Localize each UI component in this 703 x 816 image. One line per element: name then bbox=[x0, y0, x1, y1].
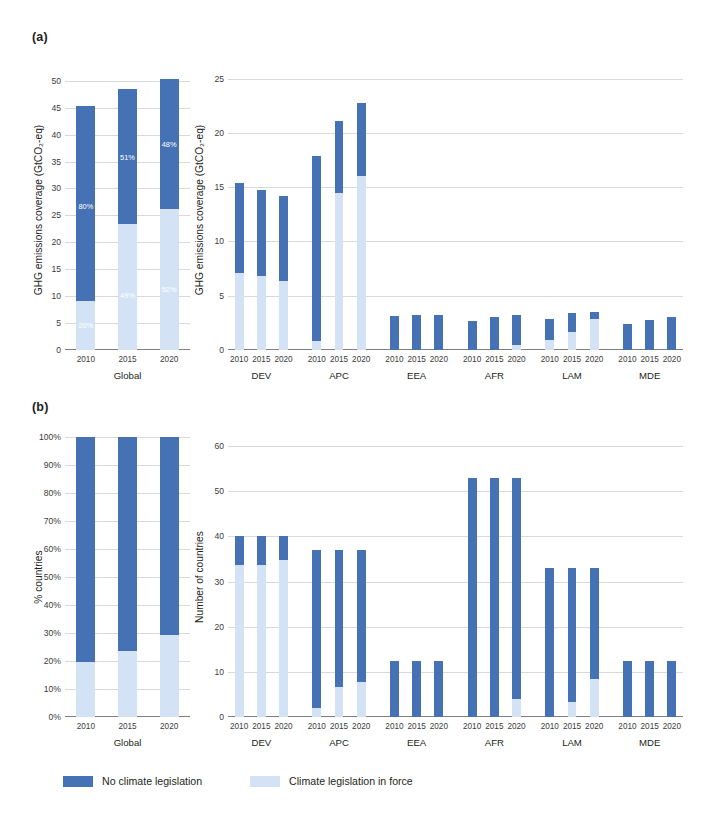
gridline bbox=[228, 446, 683, 447]
gridline bbox=[228, 241, 683, 242]
plot-area: 0102030405060Number of countries20102015… bbox=[228, 437, 683, 717]
y-axis-tick-label: 20 bbox=[51, 237, 61, 247]
bar bbox=[160, 437, 179, 717]
y-axis-tick-label: 30 bbox=[51, 183, 61, 193]
y-axis-tick-label: 10% bbox=[44, 684, 61, 694]
x-axis-tick-label: 2010 bbox=[230, 355, 248, 364]
y-axis-tick-label: 70% bbox=[44, 516, 61, 526]
x-axis-tick-label: 2015 bbox=[118, 722, 136, 731]
x-axis-tick-label: 2010 bbox=[385, 355, 403, 364]
x-axis-line bbox=[228, 349, 683, 351]
plot-area: 0510152025GHG emissions coverage (GtCO₂-… bbox=[228, 70, 683, 350]
x-axis-group-label: DEV bbox=[251, 370, 271, 381]
bar bbox=[512, 478, 521, 717]
x-axis-group-label: APC bbox=[329, 370, 349, 381]
chart-a-regions-ghg-coverage: 0510152025GHG emissions coverage (GtCO₂-… bbox=[228, 70, 683, 350]
bar: 51%49% bbox=[118, 89, 137, 350]
panel-label-a: (a) bbox=[32, 30, 48, 44]
bar bbox=[279, 536, 288, 717]
y-axis-tick-label: 0 bbox=[219, 345, 224, 355]
gridline bbox=[228, 133, 683, 134]
bar bbox=[279, 196, 288, 350]
y-axis-title: % countries bbox=[33, 437, 44, 717]
bar bbox=[257, 190, 266, 350]
y-axis-tick-label: 40 bbox=[214, 531, 224, 541]
bar-segment-legislation-in-force bbox=[76, 662, 95, 717]
y-axis-title: GHG emissions coverage (GtCO₂-eq) bbox=[194, 70, 205, 350]
gridline bbox=[228, 296, 683, 297]
y-axis-tick-label: 25 bbox=[214, 74, 224, 84]
bar-segment-legislation-in-force bbox=[257, 565, 266, 717]
x-axis-tick-label: 2010 bbox=[541, 355, 559, 364]
x-axis-tick-label: 2020 bbox=[274, 355, 292, 364]
x-axis-tick-label: 2020 bbox=[507, 722, 525, 731]
x-axis-group-label: EEA bbox=[407, 370, 426, 381]
bar-percent-label-no-legislation: 48% bbox=[160, 140, 179, 149]
bar bbox=[590, 312, 599, 350]
x-axis-tick-label: 2010 bbox=[463, 355, 481, 364]
plot-area: 0%10%20%30%40%50%60%70%80%90%100%% count… bbox=[65, 437, 190, 717]
gridline bbox=[228, 536, 683, 537]
bar-segment-legislation-in-force bbox=[568, 702, 577, 717]
bar-segment-legislation-in-force bbox=[160, 209, 179, 350]
x-axis-tick-label: 2010 bbox=[308, 722, 326, 731]
bar-segment-legislation-in-force bbox=[568, 332, 577, 350]
x-axis-tick-label: 2010 bbox=[618, 722, 636, 731]
bar-percent-label-legislation-in-force: 20% bbox=[76, 321, 95, 330]
x-axis-tick-label: 2010 bbox=[463, 722, 481, 731]
legend-swatch-light bbox=[250, 776, 280, 787]
legend-swatch-dark bbox=[63, 776, 93, 787]
bar bbox=[545, 319, 554, 350]
x-axis-tick-label: 2020 bbox=[352, 722, 370, 731]
x-axis-tick-label: 2015 bbox=[408, 722, 426, 731]
bar bbox=[412, 661, 421, 717]
bar bbox=[76, 437, 95, 717]
x-axis-tick-label: 2015 bbox=[252, 722, 270, 731]
bar bbox=[645, 320, 654, 350]
x-axis-group-label: APC bbox=[329, 737, 349, 748]
bar bbox=[335, 121, 344, 350]
x-axis-tick-label: 2015 bbox=[641, 355, 659, 364]
x-axis-group-label: AFR bbox=[485, 370, 504, 381]
bar bbox=[434, 315, 443, 350]
y-axis-tick-label: 5 bbox=[56, 318, 61, 328]
y-axis-tick-label: 50 bbox=[214, 486, 224, 496]
bar-segment-legislation-in-force bbox=[118, 224, 137, 350]
bar bbox=[235, 183, 244, 350]
x-axis-tick-label: 2010 bbox=[77, 722, 95, 731]
bar-segment-legislation-in-force bbox=[160, 635, 179, 717]
bar bbox=[623, 661, 632, 717]
chart-b-regions-number-of-countries: 0102030405060Number of countries20102015… bbox=[228, 437, 683, 717]
bar-segment-legislation-in-force bbox=[590, 679, 599, 717]
bar-segment-legislation-in-force bbox=[312, 708, 321, 717]
x-axis-tick-label: 2020 bbox=[274, 722, 292, 731]
bar bbox=[590, 568, 599, 717]
y-axis-tick-label: 25 bbox=[51, 210, 61, 220]
x-axis-group-label: LAM bbox=[562, 737, 582, 748]
bar: 80%20% bbox=[76, 106, 95, 350]
y-axis-tick-label: 0 bbox=[56, 345, 61, 355]
bar: 48%52% bbox=[160, 79, 179, 350]
x-axis-tick-label: 2015 bbox=[563, 722, 581, 731]
x-axis-tick-label: 2015 bbox=[330, 722, 348, 731]
legend-item-no-climate-legislation: No climate legislation bbox=[63, 775, 202, 787]
x-axis-tick-label: 2015 bbox=[485, 722, 503, 731]
bar-segment-legislation-in-force bbox=[545, 340, 554, 350]
bar-segment-legislation-in-force bbox=[118, 651, 137, 717]
bar bbox=[568, 568, 577, 717]
gridline bbox=[228, 187, 683, 188]
bar bbox=[434, 661, 443, 717]
x-axis-tick-label: 2020 bbox=[430, 722, 448, 731]
bar bbox=[490, 478, 499, 717]
gridline bbox=[228, 491, 683, 492]
bar bbox=[335, 550, 344, 717]
y-axis-tick-label: 45 bbox=[51, 103, 61, 113]
bar bbox=[545, 568, 554, 717]
y-axis-tick-label: 15 bbox=[214, 182, 224, 192]
y-axis-tick-label: 35 bbox=[51, 157, 61, 167]
x-axis-group-label: Global bbox=[114, 737, 142, 748]
y-axis-tick-label: 10 bbox=[51, 291, 61, 301]
x-axis-group-label: LAM bbox=[562, 370, 582, 381]
bar bbox=[667, 661, 676, 717]
y-axis-tick-label: 40% bbox=[44, 600, 61, 610]
